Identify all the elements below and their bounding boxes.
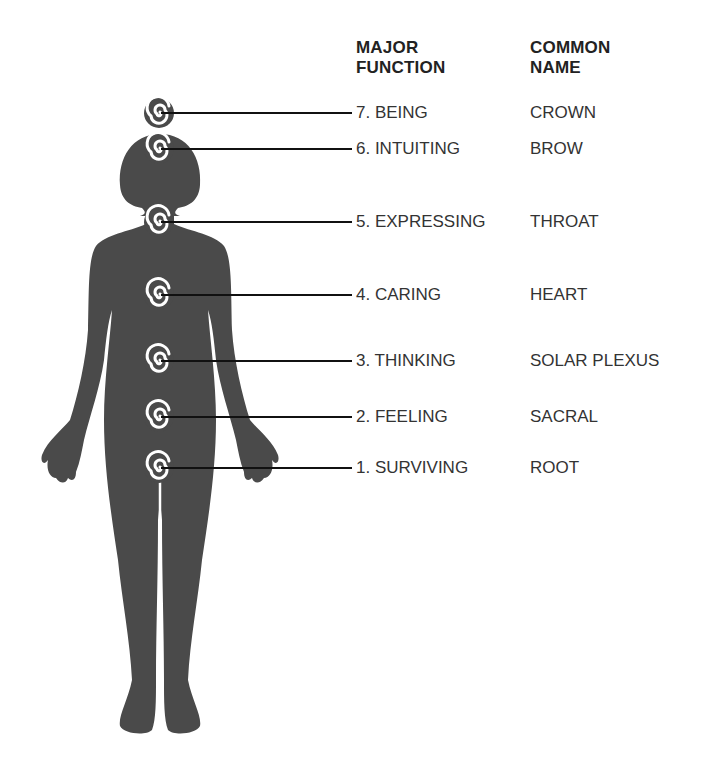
function-label-crown: 7. BEING [356,103,428,123]
header-line: NAME [530,58,611,78]
spiral-icon-crown [144,97,352,128]
name-label-crown: CROWN [530,103,596,123]
name-label-root: ROOT [530,458,579,478]
function-label-brow: 6. INTUITING [356,139,460,159]
name-label-brow: BROW [530,139,583,159]
name-label-throat: THROAT [530,212,599,232]
function-label-throat: 5. EXPRESSING [356,212,485,232]
function-label-solar-plexus: 3. THINKING [356,351,456,371]
header-line: FUNCTION [356,58,445,78]
function-label-root: 1. SURVIVING [356,458,468,478]
header-line: COMMON [530,38,611,58]
header-major-function: MAJOR FUNCTION [356,38,445,78]
function-label-sacral: 2. FEELING [356,407,448,427]
chakra-diagram: MAJOR FUNCTION COMMON NAME 7. BEING CROW… [0,0,719,768]
name-label-sacral: SACRAL [530,407,598,427]
header-line: MAJOR [356,38,445,58]
name-label-solar-plexus: SOLAR PLEXUS [530,351,659,371]
name-label-heart: HEART [530,285,587,305]
function-label-heart: 4. CARING [356,285,441,305]
header-common-name: COMMON NAME [530,38,611,78]
